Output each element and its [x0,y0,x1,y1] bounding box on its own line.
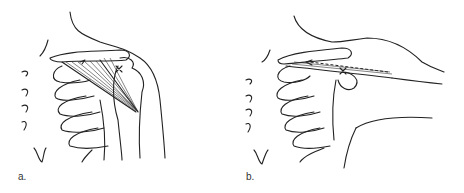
panel-a: a. [0,0,232,193]
shoulder-illustration-a [0,0,232,193]
shoulder-illustration-b [232,0,464,193]
panel-b: b. [232,0,464,193]
panel-label-a: a. [18,171,26,182]
panel-label-b: b. [246,171,254,182]
